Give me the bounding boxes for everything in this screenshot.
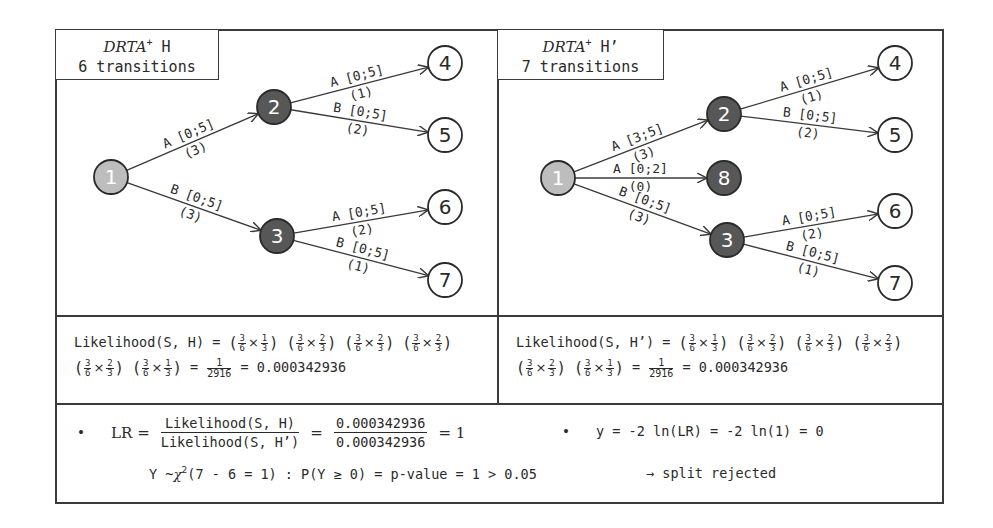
edge-count: (2) bbox=[349, 221, 375, 240]
lr-result: = 1 bbox=[438, 424, 465, 442]
state-label: 2 bbox=[718, 102, 731, 126]
state-label: 7 bbox=[889, 271, 902, 295]
state-label: 5 bbox=[889, 123, 902, 147]
fraction: 36 bbox=[862, 334, 869, 353]
edge-label: B [0;5] bbox=[332, 100, 389, 124]
lr-label: LR = bbox=[111, 424, 150, 442]
fraction: 36 bbox=[84, 359, 91, 378]
edge-label: A [0;5] bbox=[331, 200, 388, 224]
state-label: 7 bbox=[439, 268, 452, 292]
fraction: 36 bbox=[238, 334, 245, 353]
fraction: 23 bbox=[435, 334, 442, 353]
left-automaton-graph: A [0;5](3)B [0;5](3)A [0;5](1)B [0;5](2)… bbox=[94, 46, 462, 297]
state-label: 5 bbox=[439, 123, 452, 147]
right-panel-title: DRTA+ H’ bbox=[498, 33, 663, 57]
fraction: 36 bbox=[412, 334, 419, 353]
state-label: 1 bbox=[105, 165, 118, 189]
bullet: • bbox=[562, 423, 570, 439]
fraction: 23 bbox=[827, 334, 834, 353]
edge-count: (2) bbox=[345, 120, 371, 139]
fraction: 23 bbox=[319, 334, 326, 353]
state-label: 2 bbox=[268, 95, 281, 119]
y-formula: y = -2 ln(LR) = -2 ln(1) = 0 bbox=[596, 423, 824, 439]
right-likelihood-formula: Likelihood(S, H’) = (36×13) (36×23) (36×… bbox=[516, 330, 902, 380]
fraction: 36 bbox=[805, 334, 812, 353]
state-label: 6 bbox=[889, 199, 902, 223]
chi-square-test: Y ~χ2(7 - 6 = 1) : P(Y ≥ 0) = p-value = … bbox=[149, 465, 537, 482]
right-panel-title-box: DRTA+ H’ 7 transitions bbox=[497, 29, 664, 80]
edge-count: (2) bbox=[799, 225, 825, 244]
right-automaton-graph: A [3;5](3)A [0;2](0)B [0;5](3)A [0;5](1)… bbox=[541, 46, 912, 300]
conclusion: → split rejected bbox=[646, 465, 776, 481]
left-panel-title: DRTA+ H bbox=[56, 33, 218, 57]
fraction: 36 bbox=[689, 334, 696, 353]
lr-likelihood-fraction: Likelihood(S, H) Likelihood(S, H’) bbox=[161, 414, 299, 451]
fraction: 13 bbox=[164, 359, 171, 378]
fraction: 23 bbox=[885, 334, 892, 353]
left-panel-subtitle: 6 transitions bbox=[56, 57, 218, 77]
right-panel-subtitle: 7 transitions bbox=[498, 57, 663, 77]
edge-count: (2) bbox=[795, 124, 820, 142]
fraction: 23 bbox=[377, 334, 384, 353]
edge-1-2 bbox=[127, 114, 258, 170]
edge-label: A [0;5] bbox=[781, 204, 838, 228]
likelihood-value: 0.000342936 bbox=[257, 359, 346, 375]
fraction: 36 bbox=[296, 334, 303, 353]
edge-count: (1) bbox=[795, 259, 821, 279]
fraction: 36 bbox=[354, 334, 361, 353]
state-label: 8 bbox=[718, 166, 731, 190]
fraction: 13 bbox=[261, 334, 268, 353]
edge-count: (1) bbox=[798, 86, 825, 107]
edge-count: (3) bbox=[177, 203, 204, 225]
edge-count: (1) bbox=[348, 83, 374, 103]
fraction: 36 bbox=[142, 359, 149, 378]
y-statistic-formula: • y = -2 ln(LR) = -2 ln(1) = 0 bbox=[562, 423, 824, 439]
state-label: 4 bbox=[889, 51, 902, 75]
lr-formula: • LR = Likelihood(S, H) Likelihood(S, H’… bbox=[77, 414, 465, 451]
lr-value-fraction: 0.000342936 0.000342936 bbox=[334, 414, 427, 451]
state-label: 3 bbox=[721, 228, 734, 252]
left-likelihood-formula: Likelihood(S, H) = (36×13) (36×23) (36×2… bbox=[74, 330, 452, 380]
edge-count: (1) bbox=[345, 256, 372, 276]
state-label: 3 bbox=[271, 224, 284, 248]
fraction: 36 bbox=[747, 334, 754, 353]
likelihood-value: 0.000342936 bbox=[699, 359, 788, 375]
fraction: 36 bbox=[584, 359, 591, 378]
fraction: 36 bbox=[526, 359, 533, 378]
state-label: 1 bbox=[552, 166, 565, 190]
fraction: 23 bbox=[548, 359, 555, 378]
fraction: 23 bbox=[769, 334, 776, 353]
left-panel-title-box: DRTA+ H 6 transitions bbox=[55, 29, 219, 80]
bullet: • bbox=[77, 424, 85, 440]
state-label: 6 bbox=[439, 195, 452, 219]
state-label: 4 bbox=[439, 51, 452, 75]
edge-label: A [0;2] bbox=[613, 161, 668, 176]
fraction: 13 bbox=[606, 359, 613, 378]
fraction: 13 bbox=[711, 334, 718, 353]
fraction: 23 bbox=[106, 359, 113, 378]
